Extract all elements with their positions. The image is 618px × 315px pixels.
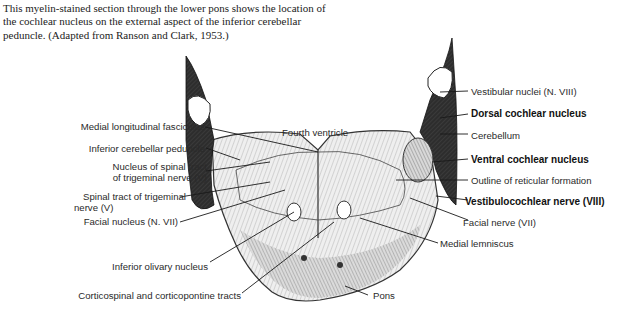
label-reticular-formation-outline: Outline of reticular formation (471, 175, 592, 186)
label-vestibulocochlear-nerve: Vestibulocochlear nerve (VIII) (465, 196, 605, 207)
label-cerebellum: Cerebellum (471, 130, 520, 141)
label-ventral-cochlear-nucleus: Ventral cochlear nucleus (471, 154, 589, 165)
label-spinal-tract-trigeminal-1: Spinal tract of trigeminal (83, 191, 186, 202)
label-medial-longitudinal-fasciculus: Medial longitudinal fasciculus (81, 121, 205, 132)
label-nucleus-spinal-tract-1: Nucleus of spinal tract (113, 161, 207, 172)
label-pons: Pons (373, 290, 395, 301)
label-nucleus-spinal-tract-2: of trigeminal nerve (V) (113, 172, 207, 183)
left-cerebellum (186, 56, 214, 209)
label-inferior-olivary-nucleus: Inferior olivary nucleus (112, 261, 208, 272)
label-dorsal-cochlear-nucleus: Dorsal cochlear nucleus (471, 108, 587, 119)
label-spinal-tract-trigeminal-2: nerve (V) (74, 202, 113, 213)
fourth-ventricle-label: Fourth ventricle (282, 127, 348, 138)
label-vestibular-nuclei: Vestibular nuclei (N. VIII) (471, 86, 577, 97)
label-facial-nerve: Facial nerve (VII) (463, 217, 536, 228)
label-facial-nucleus: Facial nucleus (N. VII) (84, 216, 178, 227)
label-inferior-cerebellar-peduncle: Inferior cerebellar peduncle (89, 143, 205, 154)
label-medial-lemniscus: Medial lemniscus (440, 238, 514, 249)
label-corticospinal-tracts: Corticospinal and corticopontine tracts (78, 290, 241, 301)
